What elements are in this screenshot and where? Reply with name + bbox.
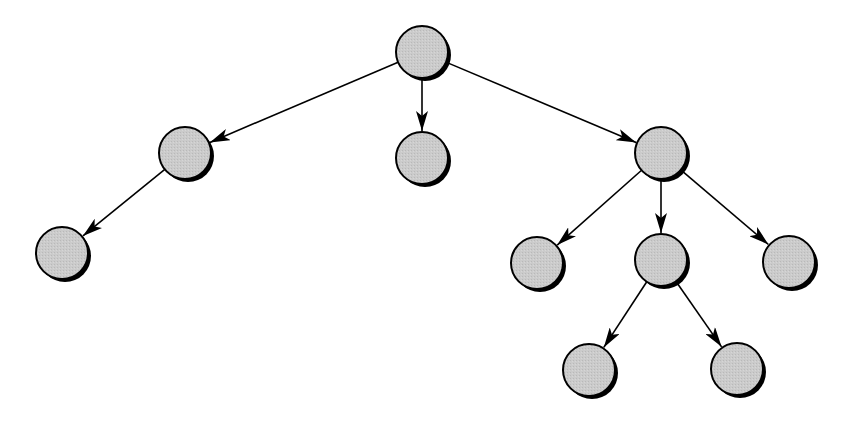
tree-node-b: [396, 132, 451, 187]
tree-node-c: [635, 127, 690, 182]
tree-node-c2a: [563, 344, 618, 399]
node-circle: [36, 227, 88, 279]
node-circle: [563, 344, 615, 396]
edge-arrow-root-c: [446, 62, 636, 142]
edge-arrow-a-a1: [83, 169, 165, 236]
node-circle: [159, 127, 211, 179]
tree-node-c2b: [711, 343, 766, 398]
node-circle: [763, 236, 815, 288]
tree-node-c2: [635, 234, 690, 289]
node-circle: [635, 234, 687, 286]
tree-diagram: [0, 0, 858, 421]
edge-arrow-c-c3: [681, 170, 769, 245]
node-circle: [396, 132, 448, 184]
tree-node-c3: [763, 236, 818, 291]
edge-arrow-c2-c2b: [676, 281, 722, 347]
tree-node-a: [159, 127, 214, 182]
edge-arrow-c-c1: [557, 170, 641, 245]
node-circle: [711, 343, 763, 395]
edge-arrow-c2-c2a: [604, 282, 647, 348]
tree-node-root: [396, 26, 451, 81]
nodes-group: [36, 26, 818, 399]
edge-arrow-root-a: [210, 62, 398, 142]
node-circle: [396, 26, 448, 78]
edges-group: [83, 62, 768, 347]
node-circle: [511, 237, 563, 289]
node-circle: [635, 127, 687, 179]
